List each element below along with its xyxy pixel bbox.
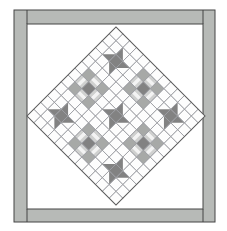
quilt-diagram [0, 0, 227, 231]
quilt-pattern-image [0, 0, 227, 231]
quilt-svg [0, 0, 227, 231]
